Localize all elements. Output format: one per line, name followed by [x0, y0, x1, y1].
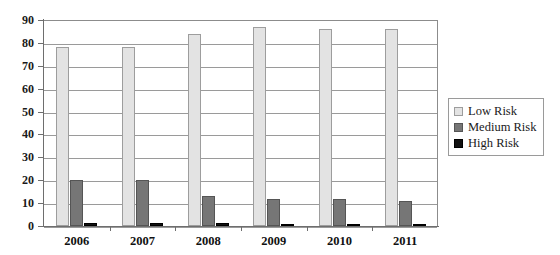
bar-high-risk-2010 — [347, 224, 360, 226]
y-axis-tick-label: 70 — [22, 60, 34, 72]
y-axis-tick-label: 80 — [22, 37, 34, 49]
x-axis-tick-label: 2010 — [327, 234, 352, 249]
legend-item[interactable]: High Risk — [454, 135, 536, 151]
y-axis-tick-mark — [38, 89, 43, 90]
y-axis-tick-mark — [38, 112, 43, 113]
x-axis-tick-mark — [241, 226, 242, 231]
y-axis-tick-label: 20 — [22, 174, 34, 186]
bar-low-risk-2006 — [56, 47, 69, 226]
bar-group — [385, 20, 426, 226]
x-axis-tick-mark — [110, 226, 111, 231]
bar-high-risk-2009 — [281, 224, 294, 226]
y-axis-tick-label: 50 — [22, 106, 34, 118]
bar-high-risk-2007 — [150, 223, 163, 226]
legend-item[interactable]: Low Risk — [454, 103, 536, 119]
y-axis-tick-mark — [38, 226, 43, 227]
bar-group — [253, 20, 294, 226]
y-axis-tick-label: 0 — [28, 220, 34, 232]
bar-medium-risk-2010 — [333, 199, 346, 226]
y-axis-tick-mark — [38, 66, 43, 67]
bar-high-risk-2008 — [216, 223, 229, 226]
bar-medium-risk-2011 — [399, 201, 412, 226]
bars-layer — [44, 20, 438, 226]
bar-medium-risk-2008 — [202, 196, 215, 226]
bar-group — [122, 20, 163, 226]
x-axis-tick-label: 2011 — [393, 234, 417, 249]
bar-medium-risk-2006 — [70, 180, 83, 226]
bar-group — [188, 20, 229, 226]
legend-swatch-low-risk — [454, 107, 463, 116]
bar-medium-risk-2009 — [267, 199, 280, 226]
legend-item-label: High Risk — [468, 137, 519, 150]
bar-group — [319, 20, 360, 226]
x-axis-tick-mark — [175, 226, 176, 231]
legend-item[interactable]: Medium Risk — [454, 119, 536, 135]
y-axis-tick-label: 40 — [22, 128, 34, 140]
bar-low-risk-2009 — [253, 27, 266, 226]
x-axis-tick-mark — [307, 226, 308, 231]
x-axis-tick-label: 2006 — [64, 234, 89, 249]
bar-high-risk-2011 — [413, 224, 426, 226]
bar-low-risk-2011 — [385, 29, 398, 226]
x-axis-tick-label: 2007 — [130, 234, 155, 249]
y-axis-tick-label: 30 — [22, 151, 34, 163]
legend-swatch-high-risk — [454, 139, 463, 148]
y-axis-tick-mark — [38, 43, 43, 44]
y-axis-tick-label: 10 — [22, 197, 34, 209]
legend-item-label: Low Risk — [468, 105, 517, 118]
x-axis-tick-label: 2009 — [261, 234, 286, 249]
bar-low-risk-2007 — [122, 47, 135, 226]
bar-medium-risk-2007 — [136, 180, 149, 226]
chart-legend: Low RiskMedium RiskHigh Risk — [448, 98, 544, 156]
y-axis-tick-mark — [38, 134, 43, 135]
x-axis-tick-label: 2008 — [196, 234, 221, 249]
y-axis-tick-label: 60 — [22, 83, 34, 95]
bar-group — [56, 20, 97, 226]
x-axis-labels: 200620072008200920102011 — [44, 230, 438, 254]
y-axis-tick-mark — [38, 180, 43, 181]
bar-high-risk-2006 — [84, 223, 97, 226]
x-axis-tick-mark — [372, 226, 373, 231]
bar-low-risk-2008 — [188, 34, 201, 226]
bar-low-risk-2010 — [319, 29, 332, 226]
y-axis-labels: 0102030405060708090 — [0, 0, 42, 255]
legend-item-label: Medium Risk — [468, 121, 536, 134]
y-axis-tick-mark — [38, 203, 43, 204]
y-axis-tick-label: 90 — [22, 14, 34, 26]
y-axis-tick-mark — [38, 20, 43, 21]
bar-chart: 0102030405060708090 20062007200820092010… — [0, 0, 560, 255]
y-axis-tick-mark — [38, 157, 43, 158]
legend-swatch-medium-risk — [454, 123, 463, 132]
